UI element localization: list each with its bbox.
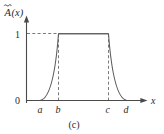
x-tick-label-d: d [124, 104, 130, 115]
y-tick-label-one: 1 [15, 29, 20, 40]
y-tick-label-zero: 0 [15, 95, 20, 106]
y-axis-group [24, 16, 29, 104]
x-axis-label: x [150, 95, 156, 106]
y-axis-arrow-icon [24, 16, 29, 23]
x-tick-label-a: a [38, 104, 43, 115]
x-axis-group [27, 98, 148, 103]
membership-function-plot: 1 0 a b c d x A (x) (c) [0, 0, 164, 134]
y-axis-label-suffix: (x) [12, 7, 24, 19]
x-axis-arrow-icon [140, 98, 147, 103]
x-tick-label-c: c [106, 104, 111, 115]
x-tick-label-b: b [56, 104, 61, 115]
y-axis-label-base: A [4, 7, 12, 18]
membership-curve [41, 34, 127, 101]
y-axis-label-group: A (x) [4, 5, 24, 19]
figure-caption: (c) [68, 119, 79, 131]
figure-container: 1 0 a b c d x A (x) (c) [0, 0, 164, 134]
